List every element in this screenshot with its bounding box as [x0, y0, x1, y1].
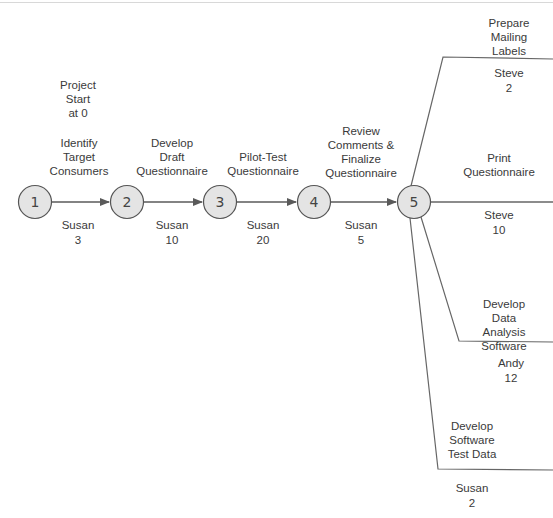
activity-mailing-labels-duration: 2 — [506, 81, 512, 95]
activity-data-analysis-software-duration: 12 — [505, 371, 518, 385]
activity-draft-questionnaire-owner: Susan — [156, 218, 189, 232]
project-start-label: Project Start at 0 — [60, 78, 96, 120]
activity-pilot-test-duration: 20 — [257, 233, 270, 247]
activity-software-test-data-owner: Susan — [456, 481, 489, 495]
activity-mailing-labels-owner: Steve — [494, 66, 523, 80]
activity-data-analysis-software-name: Develop Data Analysis Software — [480, 297, 529, 353]
node-4-label: 4 — [310, 194, 319, 210]
activity-pilot-test-owner: Susan — [247, 218, 280, 232]
activity-data-analysis-software-owner: Andy — [498, 356, 524, 370]
activity-software-test-data-name: Develop Software Test Data — [448, 419, 497, 461]
activity-draft-questionnaire-duration: 10 — [166, 233, 179, 247]
activity-review-finalize-name: Review Comments & Finalize Questionnaire — [325, 124, 397, 180]
activity-print-questionnaire-duration: 10 — [493, 223, 506, 237]
activity-mailing-labels-name: Prepare Mailing Labels — [487, 16, 531, 58]
node-2-label: 2 — [123, 194, 132, 210]
activity-pilot-test-name: Pilot-Test Questionnaire — [227, 150, 299, 178]
node-2: 2 — [111, 186, 144, 219]
activity-identify-consumers-duration: 3 — [75, 233, 81, 247]
activity-print-questionnaire-name: Print Questionnaire — [463, 151, 535, 179]
activity-review-finalize-duration: 5 — [358, 233, 364, 247]
node-5-label: 5 — [410, 194, 419, 210]
node-3-label: 3 — [216, 194, 225, 210]
node-3: 3 — [204, 186, 237, 219]
activity-review-finalize-owner: Susan — [345, 218, 378, 232]
activity-identify-consumers-name: Identify Target Consumers — [50, 136, 109, 178]
node-1: 1 — [19, 186, 52, 219]
node-4: 4 — [298, 186, 331, 219]
node-1-label: 1 — [31, 194, 40, 210]
activity-software-test-data-duration: 2 — [469, 496, 475, 510]
node-5: 5 — [398, 186, 431, 219]
activity-draft-questionnaire-name: Develop Draft Questionnaire — [136, 136, 208, 178]
activity-print-questionnaire-owner: Steve — [484, 208, 513, 222]
activity-identify-consumers-owner: Susan — [62, 218, 95, 232]
